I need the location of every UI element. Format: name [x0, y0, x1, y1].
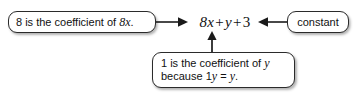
callout-coefficient-1-text: 1 is the coefficient of y because 1y = y… [153, 53, 294, 83]
expression-annotation-diagram: 8 is the coefficient of 8x. 8x+y+3 const… [0, 0, 358, 93]
arrow-right-icon [156, 15, 188, 29]
callout-coefficient-1-line1-prefix: 1 is the coefficient of [161, 57, 264, 69]
callout-coefficient-8-italic: 8x [119, 15, 130, 29]
callout-coefficient-1-line1: 1 is the coefficient of y [161, 57, 287, 70]
callout-coefficient-1-line2-prefix: because 1 [161, 70, 212, 82]
callout-coefficient-8: 8 is the coefficient of 8x. [8, 11, 156, 33]
algebraic-expression: 8x+y+3 [186, 12, 264, 32]
expression-operator-1: + [214, 14, 225, 30]
callout-coefficient-1-line2: because 1y = y. [161, 70, 287, 83]
expression-operator-2: + [232, 14, 243, 30]
callout-coefficient-1-line2-suffix: . [235, 70, 238, 82]
expression-term-3: 3 [243, 14, 251, 30]
callout-coefficient-8-text: 8 is the coefficient of 8x. [9, 16, 155, 29]
callout-coefficient-1-line2-equals: = [217, 70, 230, 82]
callout-coefficient-1-line1-italic: y [264, 56, 269, 70]
callout-constant: constant [287, 11, 349, 33]
expression-term-1: 8x [199, 14, 214, 30]
callout-coefficient-8-prefix: 8 is the coefficient of [16, 16, 119, 28]
callout-coefficient-8-suffix: . [130, 16, 133, 28]
arrow-up-icon [204, 31, 220, 54]
arrow-left-icon [258, 15, 290, 29]
callout-coefficient-1: 1 is the coefficient of y because 1y = y… [152, 52, 295, 88]
expression-term-2: y [225, 14, 232, 30]
callout-constant-text: constant [288, 16, 348, 29]
